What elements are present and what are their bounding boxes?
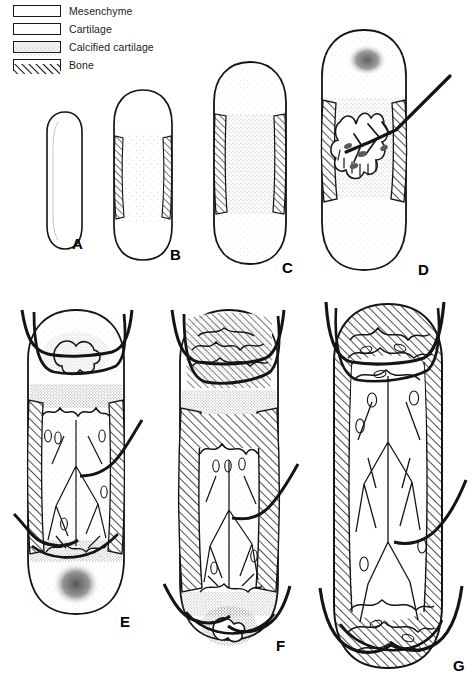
legend-item-cartilage: Cartilage — [13, 20, 183, 37]
legend-swatch-mesenchyme-icon — [13, 5, 61, 17]
figure-root: Mesenchyme Cartilage Calcified cartila — [0, 0, 472, 698]
cartilage-model-outline-a — [47, 112, 82, 249]
panel-e: E — [8, 296, 144, 628]
panel-c: C — [204, 58, 296, 270]
legend-label-cartilage: Cartilage — [69, 23, 112, 35]
legend-swatch-calcified-cartilage-icon — [13, 41, 61, 53]
panel-label-a: A — [72, 236, 83, 251]
calcified-cartilage-zone-c — [218, 114, 282, 214]
legend-swatch-cartilage-icon — [13, 23, 61, 35]
legend-item-mesenchyme: Mesenchyme — [13, 2, 183, 19]
panel-label-b: B — [170, 247, 181, 262]
panel-label-f: F — [276, 638, 285, 653]
panel-label-g: G — [453, 658, 465, 673]
bone-collar-right-c — [273, 114, 286, 214]
panel-g: G — [310, 292, 472, 682]
bone-collar-left-c — [214, 114, 227, 214]
panel-label-d: D — [418, 262, 429, 277]
panel-g-drawing — [310, 292, 472, 682]
legend-label-calcified-cartilage: Calcified cartilage — [69, 41, 154, 53]
bone-collar-right-d — [391, 100, 406, 202]
hatch-pattern-icon — [14, 64, 60, 74]
legend-label-bone: Bone — [69, 59, 94, 71]
panel-a-drawing — [36, 108, 94, 254]
legend: Mesenchyme Cartilage Calcified cartila — [13, 2, 183, 74]
bone-collar-right-b — [162, 136, 172, 219]
metaphysis-hatch-f — [182, 414, 276, 448]
legend-swatch-bone-icon — [13, 59, 61, 71]
secondary-centre-forming-d — [347, 44, 387, 76]
panel-b: B — [100, 86, 186, 266]
cortex-right-e — [108, 400, 124, 554]
panel-label-e: E — [120, 614, 130, 629]
secondary-centre-lower-e — [52, 562, 100, 606]
panel-c-drawing — [204, 58, 296, 270]
panel-d: D — [310, 26, 470, 276]
panel-d-drawing — [310, 26, 470, 276]
panel-label-c: C — [282, 260, 293, 275]
stipple-pattern-icon — [14, 46, 60, 56]
panel-e-drawing — [8, 296, 144, 628]
bone-collar-left-b — [114, 136, 124, 219]
calcified-band-upper-e — [30, 384, 122, 408]
legend-item-bone: Bone — [13, 56, 183, 73]
hypertrophic-stipple-zone-b — [121, 130, 165, 222]
panel-f-drawing — [158, 296, 300, 652]
panel-f: F — [158, 296, 300, 652]
legend-item-calcified-cartilage: Calcified cartilage — [13, 38, 183, 55]
panel-a: A — [36, 108, 94, 254]
legend-label-mesenchyme: Mesenchyme — [69, 5, 132, 17]
panel-b-drawing — [100, 86, 186, 266]
